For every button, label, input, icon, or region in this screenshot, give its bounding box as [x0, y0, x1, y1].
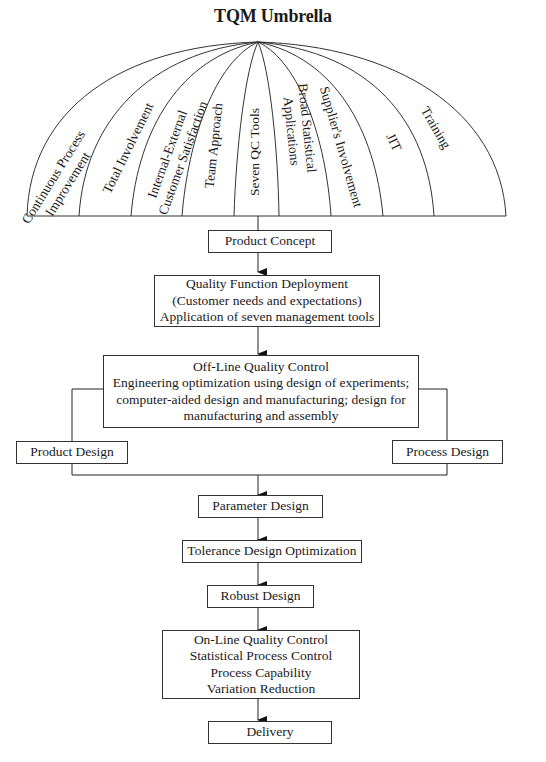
- product-design-label: Product Design: [30, 444, 114, 461]
- segment-label-jit: JIT: [383, 131, 405, 154]
- process-design-label: Process Design: [406, 444, 489, 461]
- robust-design-label: Robust Design: [221, 588, 301, 605]
- delivery-box: Delivery: [208, 721, 332, 744]
- tqm-diagram: Continuous Process Improvement Total Inv…: [0, 0, 546, 762]
- segment-label-training: Training: [418, 104, 454, 152]
- product-concept-label: Product Concept: [225, 233, 315, 250]
- online-title: On-Line Quality Control: [194, 632, 328, 649]
- segment-label-total-involvement: Total Involvement: [99, 100, 156, 196]
- offline-detail-1: Engineering optimization using design of…: [113, 375, 410, 392]
- process-design-box: Process Design: [392, 440, 503, 464]
- robust-design-box: Robust Design: [207, 585, 314, 608]
- online-detail-1: Statistical Process Control: [190, 648, 333, 665]
- offline-detail-2: computer-aided design and manufacturing;…: [116, 392, 406, 409]
- product-concept-box: Product Concept: [208, 230, 332, 253]
- umbrella-labels: Continuous Process Improvement Total Inv…: [19, 83, 454, 235]
- qfd-box: Quality Function Deployment (Customer ne…: [154, 275, 380, 327]
- offline-title: Off-Line Quality Control: [193, 359, 329, 376]
- offline-detail-3: manufacturing and assembly: [183, 408, 338, 425]
- tolerance-design-label: Tolerance Design Optimization: [187, 543, 356, 560]
- parameter-design-box: Parameter Design: [198, 495, 323, 518]
- offline-quality-control-box: Off-Line Quality Control Engineering opt…: [103, 355, 419, 428]
- qfd-detail: Application of seven management tools: [160, 309, 374, 326]
- online-quality-control-box: On-Line Quality Control Statistical Proc…: [162, 630, 360, 699]
- segment-label-broad-statistical: Broad Statistical Applications: [279, 83, 320, 179]
- qfd-subtitle: (Customer needs and expectations): [172, 293, 361, 310]
- product-design-box: Product Design: [16, 441, 128, 464]
- tolerance-design-box: Tolerance Design Optimization: [182, 540, 362, 563]
- online-detail-3: Variation Reduction: [207, 681, 315, 698]
- parameter-design-label: Parameter Design: [212, 498, 308, 515]
- segment-label-suppliers-involvement: Supplier's Involvement: [317, 85, 366, 210]
- diagram-title: TQM Umbrella: [0, 6, 546, 27]
- qfd-title: Quality Function Deployment: [186, 276, 348, 293]
- online-detail-2: Process Capability: [211, 665, 312, 682]
- delivery-label: Delivery: [246, 724, 293, 741]
- segment-label-seven-qc-tools: Seven QC Tools: [247, 108, 262, 196]
